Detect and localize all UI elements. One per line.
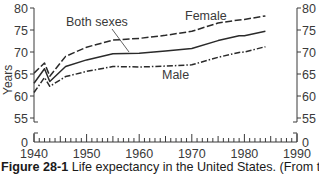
x-tick-label: 1950 [73, 147, 101, 161]
y-tick-label: 55 [14, 112, 28, 126]
y-tick-label: 75 [14, 24, 28, 38]
y-tick-label: 70 [14, 46, 28, 60]
caption-text: Life expectancy in the United States. (F… [68, 160, 319, 174]
y-axis-label: Years [1, 65, 15, 95]
y-tick-label: 80 [302, 2, 316, 16]
x-tick-label: 1960 [125, 147, 153, 161]
figure-number: Figure 28-1 [1, 160, 68, 174]
x-tick-label: 1980 [230, 147, 258, 161]
both-sexes-label: Both sexes [66, 15, 128, 29]
y-tick-label: 55 [302, 112, 316, 126]
y-tick-label: 65 [302, 68, 316, 82]
y-tick-label: 60 [302, 90, 316, 104]
x-tick-label: 1990 [283, 147, 311, 161]
series-male [34, 47, 265, 93]
y-tick-label: 60 [14, 90, 28, 104]
y-tick-label: 65 [14, 68, 28, 82]
y-tick-label: 80 [14, 2, 28, 16]
female-label: Female [185, 9, 227, 23]
male-label: Male [162, 68, 189, 82]
x-tick-label: 1940 [20, 147, 48, 161]
y-tick-label: 70 [302, 46, 316, 60]
y-tick-label: 75 [302, 24, 316, 38]
figure-caption: Figure 28-1 Life expectancy in the Unite… [1, 160, 319, 175]
life-expectancy-chart: 5560657075800556065707580019401950196019… [0, 0, 319, 176]
x-tick-label: 1970 [178, 147, 206, 161]
